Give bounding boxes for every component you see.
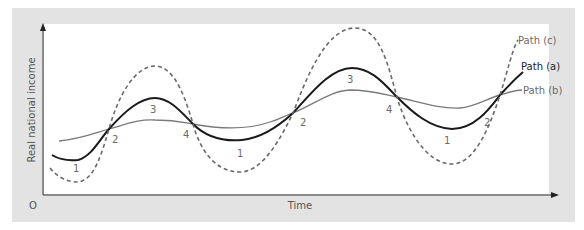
phase-label-trough: 1 [73, 163, 79, 174]
business-cycle-chart: Path (c) Path (a) Path (b) 1 2 3 4 1 2 3… [0, 0, 584, 230]
phase-label-expansion: 2 [484, 117, 490, 128]
y-axis-title: Real national income [26, 57, 37, 162]
y-axis-arrow-icon [40, 23, 46, 31]
phase-label-contraction: 4 [386, 104, 392, 115]
phase-label-expansion: 2 [300, 117, 306, 128]
phase-label-trough: 1 [237, 148, 243, 159]
x-axis-title: Time [287, 200, 312, 211]
phase-label-trough: 1 [444, 135, 450, 146]
x-axis-arrow-icon [551, 192, 559, 198]
phase-label-peak: 3 [150, 104, 156, 115]
path-c-line [50, 28, 518, 182]
path-c-label: Path (c) [518, 35, 557, 46]
phase-label-contraction: 4 [183, 129, 189, 140]
phase-label-peak: 3 [347, 74, 353, 85]
path-b-label: Path (b) [523, 85, 562, 96]
path-a-label: Path (a) [521, 61, 560, 72]
path-a-line [52, 68, 523, 160]
phase-label-expansion: 2 [112, 134, 118, 145]
origin-label: O [29, 200, 37, 211]
